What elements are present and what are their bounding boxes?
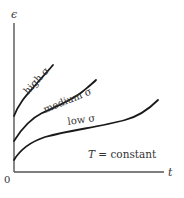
label-low-sigma: low σ bbox=[67, 112, 96, 127]
y-axis-label: ϵ bbox=[11, 8, 17, 21]
creep-curve-figure: ϵ t 0 high σ medium σ low σ T = constant bbox=[0, 0, 184, 198]
origin-label: 0 bbox=[4, 174, 10, 185]
label-medium-sigma: medium σ bbox=[42, 86, 94, 115]
annotation-text: = constant bbox=[95, 148, 157, 160]
label-high-sigma: high σ bbox=[21, 65, 51, 97]
x-axis-label: t bbox=[168, 166, 173, 179]
temperature-annotation: T = constant bbox=[88, 148, 157, 160]
chart-canvas: ϵ t 0 high σ medium σ low σ T = constant bbox=[0, 0, 184, 198]
